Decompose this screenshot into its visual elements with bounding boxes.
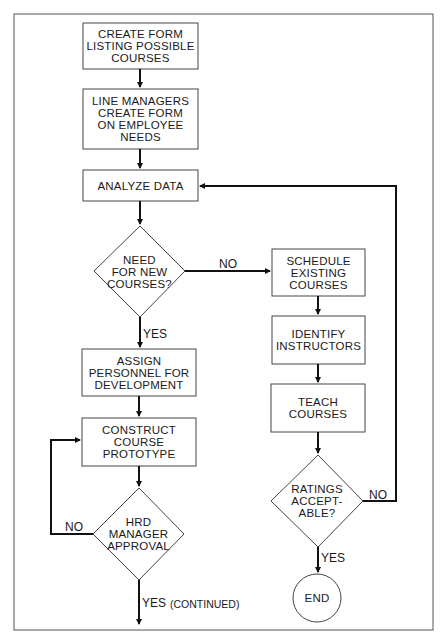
node-teach-courses: TEACH COURSES [271, 384, 365, 432]
flowchart-canvas [0, 0, 444, 641]
node-label: ASSIGN PERSONNEL FOR DEVELOPMENT [89, 355, 190, 391]
node-label: END [305, 592, 330, 604]
node-identify-instructors: IDENTIFY INSTRUCTORS [272, 316, 365, 364]
node-construct-prototype: CONSTRUCT COURSE PROTOTYPE [82, 418, 196, 466]
diagram-frame [14, 14, 433, 630]
node-analyze-data: ANALYZE DATA [83, 170, 198, 201]
edge-label-ratings-no: NO [369, 489, 387, 501]
node-ratings-acceptable: RATINGS ACCEPT- ABLE? [271, 455, 363, 547]
edge-label-hrd-no: NO [65, 521, 83, 533]
edge-label-need-no: NO [219, 258, 237, 270]
node-line-managers: LINE MANAGERS CREATE FORM ON EMPLOYEE NE… [83, 89, 198, 149]
node-need-new: NEED FOR NEW COURSES? [94, 226, 185, 317]
edge-label-ratings-yes: YES [321, 552, 345, 564]
node-label: CREATE FORM LISTING POSSIBLE COURSES [86, 28, 194, 64]
edge-label-hrd-yes: YES [142, 597, 166, 609]
node-label: TEACH COURSES [289, 396, 347, 420]
node-create-form: CREATE FORM LISTING POSSIBLE COURSES [83, 23, 198, 69]
node-schedule-existing: SCHEDULE EXISTING COURSES [272, 249, 365, 296]
node-label: CONSTRUCT COURSE PROTOTYPE [102, 424, 176, 460]
node-hrd-approval: HRD MANAGER APPROVAL [93, 488, 184, 580]
node-end: END [293, 574, 341, 622]
node-label: ANALYZE DATA [97, 180, 183, 192]
node-assign-personnel: ASSIGN PERSONNEL FOR DEVELOPMENT [82, 349, 196, 396]
node-label: LINE MANAGERS CREATE FORM ON EMPLOYEE NE… [92, 95, 189, 143]
node-label: NEED FOR NEW COURSES? [107, 254, 172, 290]
edge-label-need-yes: YES [143, 328, 167, 340]
node-label: RATINGS ACCEPT- ABLE? [291, 483, 343, 519]
node-label: SCHEDULE EXISTING COURSES [286, 255, 350, 291]
node-label: IDENTIFY INSTRUCTORS [276, 328, 361, 352]
edge-label-hrd-continued: (CONTINUED) [170, 598, 239, 610]
node-label: HRD MANAGER APPROVAL [107, 516, 170, 552]
